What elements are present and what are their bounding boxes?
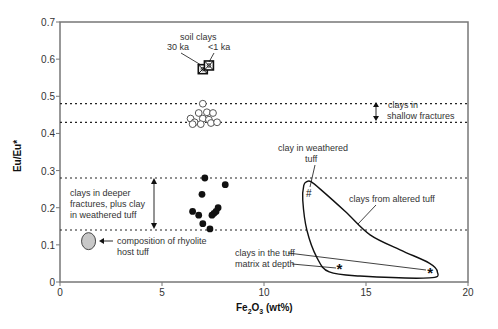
y-tick-label: 0.5 <box>41 91 55 102</box>
open-circle-marker <box>199 100 206 107</box>
filled-circle-marker <box>189 208 196 215</box>
shallow-arrow-head-up <box>373 102 379 107</box>
altered-tuff-label: clays from altered tuff <box>349 194 435 204</box>
filled-circle-marker <box>201 175 208 182</box>
tuff-matrix-label-2: matrix at depth <box>235 259 295 269</box>
filled-circle-marker <box>222 181 229 188</box>
deeper-fractures-label-1: clays in deeper <box>70 188 131 198</box>
y-tick-label: 0 <box>49 277 55 288</box>
weathered-tuff-label-2: tuff <box>305 154 318 164</box>
filled-circle-marker <box>213 208 220 215</box>
y-tick-label: 0.3 <box>41 166 55 177</box>
matrix-leader-2 <box>292 264 336 268</box>
weathered-tuff-label-1: clay in weathered <box>278 143 348 153</box>
y-tick-label: 0.7 <box>41 17 55 28</box>
filled-circle-marker <box>199 220 206 227</box>
open-circle-marker <box>210 110 217 117</box>
annotations: Eu/Eu* Fe2O3 (wt%) soil clays 30 ka <1 k… <box>12 32 455 315</box>
soil-30ka-label: 30 ka <box>167 42 189 52</box>
x-tick-label: 5 <box>159 287 165 298</box>
y-tick-label: 0.2 <box>41 203 55 214</box>
soil-clays-label: soil clays <box>180 32 217 42</box>
deeper-arrow-head-up <box>151 178 157 184</box>
open-circle-marker <box>214 119 221 126</box>
filled-circle-marker <box>207 225 214 232</box>
y-axis-label: Eu/Eu* <box>12 140 23 172</box>
open-circle-marker <box>189 121 196 128</box>
tuff-matrix-label-1: clays in the tuff <box>235 248 295 258</box>
x-tick-label: 0 <box>57 287 63 298</box>
x-tick-label: 20 <box>462 287 474 298</box>
shallow-fractures-label-2: shallow fractures <box>387 111 455 121</box>
rhyolite-label-2: host tuff <box>117 247 149 257</box>
matrix-leader-1 <box>288 253 426 270</box>
shallow-arrow-head-down <box>373 116 379 121</box>
star-marker: * <box>337 260 343 277</box>
y-tick-label: 0.1 <box>41 240 55 251</box>
rhyolite-host-tuff-marker <box>82 233 96 250</box>
rhyolite-arrow-head <box>99 238 104 244</box>
eu-anomaly-vs-fe2o3-chart: 00.10.20.30.40.50.60.705101520 #** Eu/Eu… <box>0 0 498 329</box>
shallow-fractures-label-1: clays in <box>388 100 418 110</box>
deeper-arrow-head-down <box>151 223 157 229</box>
y-tick-label: 0.4 <box>41 128 55 139</box>
filled-circle-marker <box>199 191 206 198</box>
rhyolite-label-1: composition of rhyolite <box>117 236 207 246</box>
hash-marker: # <box>306 188 312 199</box>
soil-1ka-label: <1 ka <box>208 42 230 52</box>
altered-leader <box>358 205 376 224</box>
x-tick-label: 15 <box>360 287 372 298</box>
x-axis-label: Fe2O3 (wt%) <box>236 302 293 315</box>
star-marker: * <box>427 264 433 281</box>
x-tick-label: 10 <box>258 287 270 298</box>
leader-30ka <box>181 53 201 65</box>
open-circle-marker <box>197 121 204 128</box>
filled-circle-marker <box>195 212 202 219</box>
deeper-fractures-label-2: fractures, plus clay <box>70 199 146 209</box>
y-tick-label: 0.6 <box>41 54 55 65</box>
deeper-fractures-label-3: in weathered tuff <box>70 210 137 220</box>
